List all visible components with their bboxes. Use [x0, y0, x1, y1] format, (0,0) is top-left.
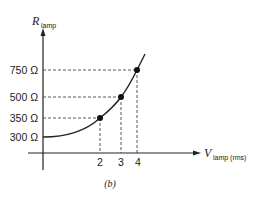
y-tick-350: 350 Ω	[10, 112, 38, 124]
x-axis-arrow-icon	[193, 151, 201, 156]
data-point-2V	[97, 115, 103, 121]
x-tick-2: 2	[97, 156, 103, 168]
y-tick-labels: 750 Ω 500 Ω 350 Ω 300 Ω	[10, 64, 38, 143]
y-axis-title: R lamp	[31, 14, 56, 30]
data-point-4V	[134, 67, 140, 73]
x-tick-labels: 2 3 4	[97, 156, 141, 168]
y-tick-500: 500 Ω	[10, 91, 38, 103]
x-axis-title: V lamp (rms)	[204, 146, 246, 162]
y-axis-symbol: R	[31, 14, 40, 28]
data-point-3V	[118, 94, 124, 100]
y-tick-750: 750 Ω	[10, 64, 38, 76]
resistance-curve	[43, 54, 145, 137]
x-tick-4: 4	[135, 156, 141, 168]
y-axis-arrow-icon	[41, 28, 46, 36]
x-axis-symbol: V	[204, 146, 213, 160]
guide-lines	[43, 70, 137, 153]
x-axis-subscript: lamp (rms)	[213, 154, 246, 162]
figure-caption: (b)	[104, 178, 116, 190]
y-tick-300: 300 Ω	[10, 131, 38, 143]
y-axis-subscript: lamp	[41, 22, 56, 30]
data-points	[97, 67, 140, 121]
axes	[28, 28, 201, 170]
lamp-resistance-diagram: 750 Ω 500 Ω 350 Ω 300 Ω 2 3 4 R lamp V l…	[0, 0, 258, 198]
x-tick-3: 3	[118, 156, 124, 168]
